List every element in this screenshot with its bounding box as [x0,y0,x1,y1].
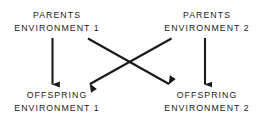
node-offspring-2-line-1: OFFSPRING [153,89,262,102]
node-offspring-environment-1: OFFSPRING ENVIRONMENT 1 [2,89,113,115]
node-parents-1-line-1: PARENTS [2,9,113,22]
node-offspring-environment-2: OFFSPRING ENVIRONMENT 2 [153,89,262,115]
node-parents-2-line-1: PARENTS [153,9,262,22]
node-offspring-1-line-1: OFFSPRING [2,89,113,102]
node-parents-environment-2: PARENTS ENVIRONMENT 2 [153,9,262,35]
node-parents-environment-1: PARENTS ENVIRONMENT 1 [2,9,113,35]
node-offspring-1-line-2: ENVIRONMENT 1 [2,102,113,115]
node-parents-1-line-2: ENVIRONMENT 1 [2,22,113,35]
node-offspring-2-line-2: ENVIRONMENT 2 [153,102,262,115]
node-parents-2-line-2: ENVIRONMENT 2 [153,22,262,35]
diagram-canvas: PARENTS ENVIRONMENT 1 PARENTS ENVIRONMEN… [0,0,263,121]
